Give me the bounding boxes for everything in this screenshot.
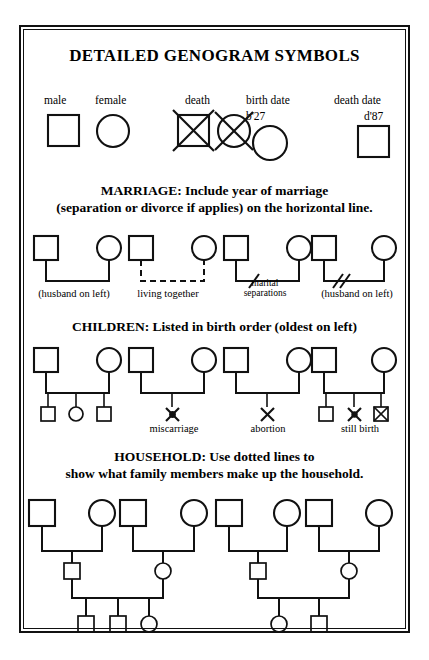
household1-coupleA-male-square xyxy=(29,500,55,526)
household1-son-square xyxy=(64,563,80,579)
household2-son-square xyxy=(250,563,266,579)
household2-coupleB-female-circle xyxy=(366,500,392,526)
household2-coupleB-union-line xyxy=(319,526,379,551)
household1-coupleB-union-line xyxy=(133,526,194,551)
household2-middle-union-line xyxy=(258,579,349,598)
page-content: DETAILED GENOGRAM SYMBOLS male female de… xyxy=(24,30,405,628)
household-graphics xyxy=(24,30,405,628)
household2-coupleB-male-square xyxy=(306,500,332,526)
household1-middle-union-line xyxy=(72,579,163,598)
household1-daughter-circle xyxy=(155,563,171,579)
household2-daughter-circle xyxy=(341,563,357,579)
household2-coupleA-female-circle xyxy=(274,500,300,526)
household1-coupleB-female-circle xyxy=(181,500,207,526)
household2-coupleA-union-line xyxy=(229,526,287,551)
household1-coupleA-union-line xyxy=(42,526,102,551)
household1-coupleB-male-square xyxy=(120,500,146,526)
household2-coupleA-male-square xyxy=(216,500,242,526)
household1-coupleA-female-circle xyxy=(89,500,115,526)
genogram-page: DETAILED GENOGRAM SYMBOLS male female de… xyxy=(0,0,429,660)
